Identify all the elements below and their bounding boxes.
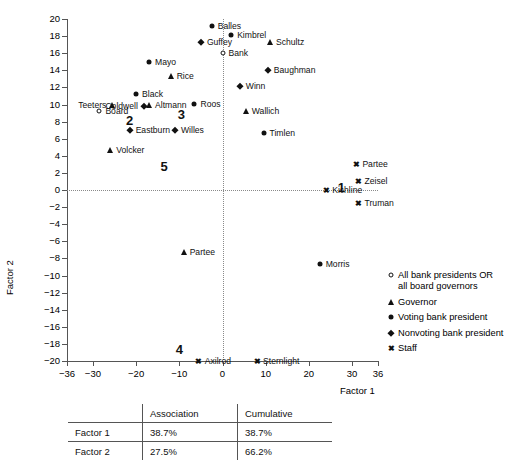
data-point-label: Baughman — [274, 66, 316, 75]
table-column-header: Cumulative — [238, 404, 333, 423]
zero-reference-line-vertical — [223, 19, 224, 362]
marker-circle-filled-icon — [209, 23, 214, 28]
legend-item[interactable]: Voting bank president — [385, 312, 530, 323]
x-tick-label: 30 — [347, 369, 358, 379]
y-tick-label: −10 — [44, 271, 60, 281]
x-tick — [179, 361, 180, 366]
table-header-row: AssociationCumulative — [68, 404, 332, 423]
y-tick-label: 12 — [49, 83, 60, 93]
legend-item[interactable]: All bank presidents OR all board governo… — [385, 270, 530, 292]
legend-item[interactable]: Nonvoting bank president — [385, 328, 530, 339]
y-tick — [62, 344, 67, 345]
y-tick — [62, 122, 67, 123]
y-tick — [62, 310, 67, 311]
legend-item[interactable]: Governor — [385, 297, 530, 308]
data-point-label: Timlen — [270, 128, 295, 137]
y-tick — [62, 87, 67, 88]
marker-x-icon — [195, 358, 202, 365]
data-point-label: Bank — [229, 49, 249, 58]
data-point-label: Kimbrel — [237, 31, 266, 40]
marker-x-icon — [254, 358, 261, 365]
y-tick — [62, 276, 67, 277]
marker-diamond-icon — [265, 67, 271, 73]
marker-circle-filled-icon — [317, 262, 322, 267]
table-cell-association: 27.5% — [143, 442, 238, 460]
x-tick-label: −10 — [171, 369, 187, 379]
y-tick-label: 4 — [55, 151, 60, 161]
table-cell-association: 38.7% — [143, 423, 238, 442]
y-tick — [62, 139, 67, 140]
marker-triangle-icon — [181, 249, 187, 255]
marker-diamond-icon — [172, 127, 178, 133]
marker-triangle-icon — [168, 73, 174, 79]
legend-item-label: Nonvoting bank president — [398, 328, 503, 339]
x-tick-label: −36 — [59, 369, 75, 379]
y-tick — [62, 293, 67, 294]
table-body: Factor 138.7%38.7%Factor 227.5%66.2% — [68, 423, 332, 460]
data-point-label: Sternlight — [263, 357, 299, 366]
data-point-label: Winn — [246, 81, 266, 90]
y-tick — [62, 70, 67, 71]
data-point-label: Mayo — [155, 57, 176, 66]
cluster-label: 4 — [176, 343, 183, 356]
data-point-label: Eastburn — [136, 126, 170, 135]
x-tick-label: 0 — [220, 369, 225, 379]
cluster-label: 3 — [178, 107, 185, 120]
legend-item-label: Staff — [398, 343, 417, 354]
marker-triangle-icon — [267, 39, 273, 45]
x-tick-label: 20 — [304, 369, 315, 379]
marker-triangle-icon — [388, 299, 394, 305]
marker-triangle-icon — [107, 147, 113, 153]
marker-triangle-icon — [243, 108, 249, 114]
legend-marker — [385, 343, 398, 354]
y-tick-label: 18 — [49, 31, 60, 41]
table-column-header: Association — [143, 404, 238, 423]
scatter-plot-area: 20181614121086420−2−4−6−8−10−12−14−16−18… — [67, 19, 378, 362]
y-tick — [62, 327, 67, 328]
y-tick-label: −4 — [49, 219, 60, 229]
y-tick-label: −20 — [44, 356, 60, 366]
table-row: Factor 227.5%66.2% — [68, 442, 332, 460]
marker-circle-open-icon — [97, 109, 102, 114]
y-tick-label: −12 — [44, 288, 60, 298]
data-point-label: Coldwell — [105, 102, 137, 111]
y-tick — [62, 241, 67, 242]
table-cell-name: Factor 1 — [68, 423, 143, 442]
y-tick-label: 14 — [49, 66, 60, 76]
marker-circle-open-icon — [220, 51, 225, 56]
y-tick — [62, 258, 67, 259]
cluster-label: 5 — [161, 160, 168, 173]
marker-x-icon — [353, 161, 360, 168]
y-tick — [62, 105, 67, 106]
marker-diamond-icon — [141, 103, 147, 109]
x-tick-label: −30 — [85, 369, 101, 379]
y-tick-label: −6 — [49, 237, 60, 247]
marker-circle-filled-icon — [389, 315, 394, 320]
cluster-label: 1 — [338, 181, 345, 194]
x-tick-label: −20 — [128, 369, 144, 379]
legend-item[interactable]: Staff — [385, 343, 530, 354]
x-tick — [378, 361, 379, 366]
y-tick-label: 0 — [55, 185, 60, 195]
y-tick — [62, 190, 67, 191]
data-point-label: Guffey — [207, 38, 232, 47]
marker-diamond-icon — [388, 329, 394, 335]
x-tick — [136, 361, 137, 366]
y-tick-label: 6 — [55, 134, 60, 144]
chart-root: 20181614121086420−2−4−6−8−10−12−14−16−18… — [0, 0, 532, 460]
marker-diamond-icon — [237, 82, 243, 88]
marker-diamond-icon — [198, 39, 204, 45]
data-point-label: Wallich — [252, 107, 279, 116]
x-tick-label: 36 — [373, 369, 384, 379]
y-tick-label: −8 — [49, 254, 60, 264]
y-tick — [62, 36, 67, 37]
chart-legend: All bank presidents OR all board governo… — [385, 270, 530, 359]
marker-circle-filled-icon — [261, 130, 266, 135]
y-tick-label: −16 — [44, 322, 60, 332]
y-tick — [62, 53, 67, 54]
marker-circle-filled-icon — [192, 101, 197, 106]
marker-diamond-icon — [126, 127, 132, 133]
data-point-label: Zeisel — [365, 177, 388, 186]
y-tick — [62, 19, 67, 20]
data-point-label: Volcker — [116, 146, 144, 155]
